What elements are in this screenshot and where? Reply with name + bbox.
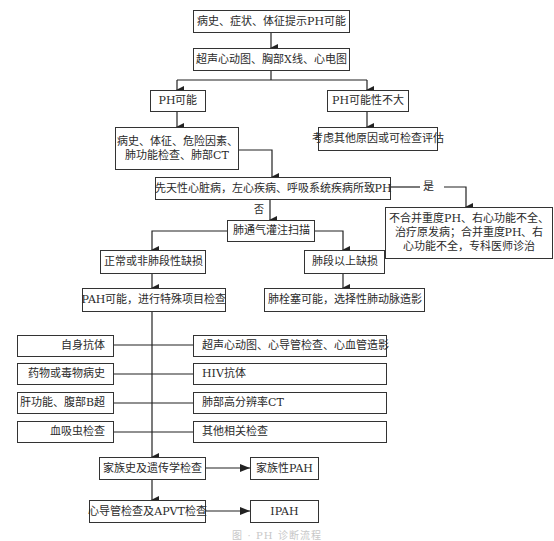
node-ph-possible: PH可能 [150, 90, 206, 112]
node-left-test-1-label: 自身抗体 [61, 339, 105, 353]
node-pah-possible: PAH可能，进行特殊项目检查 [82, 288, 226, 312]
node-secondary-treatment-line-3: 心功能不全，专科医师诊治 [403, 240, 535, 254]
node-secondary-treatment: 不合并重度PH、右心功能不全、 治疗原发病；合并重度PH、右 心功能不全，专科医… [385, 207, 553, 259]
node-segmental-defect-label: 肺段以上缺损 [312, 255, 378, 269]
node-right-test-4-label: 其他相关检查 [202, 425, 268, 439]
node-other-causes: 考虑其他原因或可检查评估 [318, 127, 438, 151]
node-secondary-ph-label: 先天性心脏病，左心疾病、呼吸系统疾病所致PH [155, 182, 392, 196]
node-vq-scan-label: 肺通气灌注扫描 [233, 224, 310, 238]
node-left-test-4-label: 血吸虫检查 [50, 425, 105, 439]
node-other-causes-label: 考虑其他原因或可检查评估 [312, 132, 444, 146]
node-secondary-treatment-line-2: 治疗原发病；合并重度PH、右 [395, 226, 544, 240]
node-vq-scan: 肺通气灌注扫描 [227, 220, 315, 242]
node-normal-defect-label: 正常或非肺段性缺损 [104, 255, 203, 269]
node-pe-possible-label: 肺栓塞可能，选择性肺动脉造影 [268, 293, 422, 307]
node-segmental-defect: 肺段以上缺损 [304, 250, 385, 274]
node-workup: 病史、体征、危险因素、 肺功能检查、肺部CT [115, 127, 239, 170]
node-familial-pah: 家族性PAH [250, 457, 319, 480]
node-ph-possible-label: PH可能 [159, 94, 198, 108]
node-left-test-4: 血吸虫检查 [17, 421, 114, 443]
node-ipah: IPAH [250, 500, 319, 523]
node-workup-line-1: 病史、体征、危险因素、 [117, 135, 238, 149]
node-left-test-3: 肝功能、腹部B超 [17, 392, 114, 414]
node-right-test-1: 超声心动图、心导管检查、心血管造影 [193, 335, 387, 357]
node-ipah-label: IPAH [270, 505, 298, 519]
node-screening: 超声心动图、胸部X线、心电图 [193, 48, 350, 71]
node-left-test-3-label: 肝功能、腹部B超 [20, 396, 105, 410]
node-family-history-label: 家族史及遗传学检查 [103, 462, 202, 476]
node-familial-pah-label: 家族性PAH [256, 462, 313, 476]
figure-caption: 图 · PH 诊断流程 [0, 527, 554, 541]
node-right-test-4: 其他相关检查 [193, 421, 387, 443]
node-left-test-1: 自身抗体 [17, 335, 114, 357]
node-right-test-1-label: 超声心动图、心导管检查、心血管造影 [202, 339, 389, 353]
node-left-test-2: 药物或毒物病史 [17, 363, 114, 385]
node-family-history: 家族史及遗传学检查 [99, 457, 206, 480]
node-pah-possible-label: PAH可能，进行特殊项目检查 [82, 293, 227, 307]
edge-label-yes: 是 [421, 181, 436, 193]
node-right-test-3-label: 肺部高分辨率CT [202, 396, 284, 410]
node-screening-label: 超声心动图、胸部X线、心电图 [196, 53, 347, 67]
node-secondary-treatment-line-1: 不合并重度PH、右心功能不全、 [389, 212, 549, 226]
node-cath-apvt-label: 心导管检查及APVT检查 [88, 505, 207, 519]
node-ph-unlikely-label: PH可能性不大 [332, 94, 404, 108]
node-cath-apvt: 心导管检查及APVT检查 [89, 500, 206, 523]
node-left-test-2-label: 药物或毒物病史 [28, 367, 105, 381]
node-start-label: 病史、症状、体征提示PH可能 [197, 15, 346, 29]
node-normal-defect: 正常或非肺段性缺损 [100, 250, 206, 274]
node-ph-unlikely: PH可能性不大 [327, 90, 409, 112]
node-start: 病史、症状、体征提示PH可能 [193, 10, 350, 33]
node-workup-line-2: 肺功能检查、肺部CT [125, 149, 229, 163]
edge-label-no: 否 [252, 204, 266, 216]
node-right-test-2: HIV抗体 [193, 363, 387, 385]
node-secondary-ph: 先天性心脏病，左心疾病、呼吸系统疾病所致PH [155, 177, 391, 200]
node-pe-possible: 肺栓塞可能，选择性肺动脉造影 [264, 288, 425, 312]
node-right-test-3: 肺部高分辨率CT [193, 392, 387, 414]
node-right-test-2-label: HIV抗体 [202, 367, 246, 381]
